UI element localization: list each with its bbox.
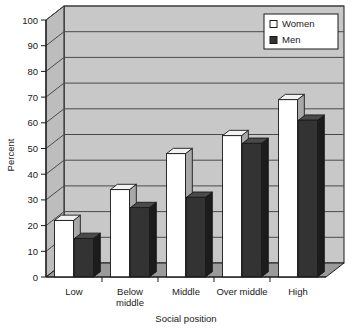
bar-side-face bbox=[262, 138, 269, 277]
bar-side-face bbox=[150, 202, 157, 277]
y-tick-label: 20 bbox=[27, 220, 38, 231]
bar-men-3 bbox=[243, 138, 269, 277]
bar-front-face bbox=[187, 197, 206, 277]
bar-men-4 bbox=[299, 115, 325, 277]
y-axis-title: Percent bbox=[5, 138, 16, 171]
bar-men-1 bbox=[131, 202, 157, 277]
y-tick-label: 70 bbox=[27, 92, 38, 103]
chart-legend: Women Men bbox=[264, 14, 338, 49]
y-tick-label: 50 bbox=[27, 143, 38, 154]
y-tick-label: 10 bbox=[27, 246, 38, 257]
bar-front-face bbox=[167, 154, 186, 277]
bar-front-face bbox=[243, 143, 262, 277]
y-tick-label: 90 bbox=[27, 40, 38, 51]
bar-front-face bbox=[299, 120, 318, 277]
x-tick-label: Middle bbox=[172, 286, 200, 297]
bar-side-face bbox=[94, 233, 101, 277]
bar-men-2 bbox=[187, 192, 213, 277]
chart-canvas: 0102030405060708090100 LowBelowmiddleMid… bbox=[0, 0, 355, 330]
x-tick-label: Below bbox=[117, 286, 143, 297]
y-tick-label: 80 bbox=[27, 66, 38, 77]
legend-swatch-women bbox=[270, 21, 277, 28]
y-tick-label: 30 bbox=[27, 194, 38, 205]
y-tick-label: 0 bbox=[33, 272, 38, 283]
x-tick-label: Over middle bbox=[216, 286, 267, 297]
bar-men-0 bbox=[75, 233, 101, 277]
y-tick-label: 60 bbox=[27, 117, 38, 128]
x-tick-label: middle bbox=[116, 297, 144, 308]
bar-front-face bbox=[111, 190, 130, 277]
bar-chart: 0102030405060708090100 LowBelowmiddleMid… bbox=[0, 0, 355, 330]
x-axis-title: Social position bbox=[155, 313, 216, 324]
bar-side-face bbox=[206, 192, 213, 277]
bar-front-face bbox=[131, 208, 150, 277]
bar-side-face bbox=[318, 115, 325, 277]
bar-front-face bbox=[279, 100, 298, 277]
x-tick-label: High bbox=[288, 286, 308, 297]
bar-front-face bbox=[223, 136, 242, 277]
bar-front-face bbox=[75, 238, 94, 277]
y-tick-label: 40 bbox=[27, 169, 38, 180]
x-tick-label: Low bbox=[65, 286, 83, 297]
legend-swatch-men bbox=[270, 37, 277, 44]
legend-label-men: Men bbox=[282, 34, 300, 45]
legend-label-women: Women bbox=[282, 18, 315, 29]
bar-front-face bbox=[55, 220, 74, 277]
y-tick-label: 100 bbox=[22, 15, 38, 26]
